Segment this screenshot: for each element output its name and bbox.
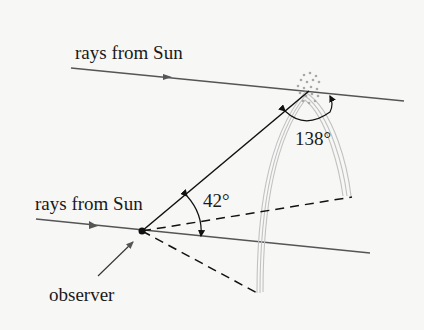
angle-138-label: 138°	[295, 128, 331, 149]
observer-pointer-arrow	[98, 242, 133, 276]
top-rays-label: rays from Sun	[75, 42, 183, 63]
angle-arc-42	[187, 196, 201, 236]
observer-label: observer	[49, 284, 115, 305]
observer-point	[139, 228, 146, 235]
bottom-rays-label: rays from Sun	[35, 193, 143, 214]
angle-arc-138	[285, 96, 332, 121]
angle-42-label: 42°	[203, 190, 230, 211]
ray-arrow-icon	[163, 74, 172, 80]
bottom-sun-ray	[36, 219, 370, 253]
top-sun-ray	[71, 68, 404, 101]
dashed-sight-line-upper	[142, 197, 352, 231]
rainbow-diagram: rays from Sun rays from Sun observer 42°…	[0, 0, 424, 330]
